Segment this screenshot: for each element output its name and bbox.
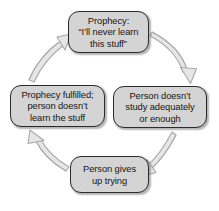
arrowhead bbox=[28, 130, 44, 144]
node-no-study-line-3: or enough bbox=[139, 113, 180, 124]
arrow-fulfilled-to-prophecy bbox=[29, 34, 71, 82]
arrowhead bbox=[181, 68, 197, 84]
node-prophecy-line-1: Prophecy: bbox=[88, 15, 129, 26]
node-no-study-label: Person doesn’t study adequately or enoug… bbox=[114, 90, 206, 125]
node-gives-up-line-2: up trying bbox=[92, 175, 127, 186]
node-prophecy-fulfilled-line-1: Prophecy fulfilled; bbox=[21, 89, 93, 100]
node-prophecy-fulfilled[interactable]: Prophecy fulfilled; person doesn’t learn… bbox=[10, 85, 105, 127]
node-prophecy-label: Prophecy: “I’ll never learn this stuff” bbox=[69, 15, 148, 50]
node-prophecy-fulfilled-label: Prophecy fulfilled; person doesn’t learn… bbox=[11, 89, 104, 124]
node-prophecy-line-3: this stuff” bbox=[90, 38, 127, 49]
arrow-prophecy-to-nostudy bbox=[150, 32, 197, 84]
node-no-study[interactable]: Person doesn’t study adequately or enoug… bbox=[113, 86, 207, 128]
node-prophecy-fulfilled-line-3: learn the stuff bbox=[30, 112, 85, 123]
node-gives-up[interactable]: Person gives up trying bbox=[70, 156, 149, 193]
diagram-canvas: Prophecy: “I’ll never learn this stuff” … bbox=[0, 0, 219, 211]
node-no-study-line-2: study adequately bbox=[125, 101, 194, 112]
node-gives-up-label: Person gives up trying bbox=[71, 163, 148, 186]
arrow-givesup-to-fulfilled bbox=[28, 130, 69, 171]
node-prophecy-line-2: “I’ll never learn bbox=[79, 26, 139, 37]
node-prophecy[interactable]: Prophecy: “I’ll never learn this stuff” bbox=[68, 11, 149, 53]
node-no-study-line-1: Person doesn’t bbox=[129, 90, 190, 101]
node-prophecy-fulfilled-line-2: person doesn’t bbox=[27, 100, 87, 111]
node-gives-up-line-1: Person gives bbox=[83, 163, 136, 174]
